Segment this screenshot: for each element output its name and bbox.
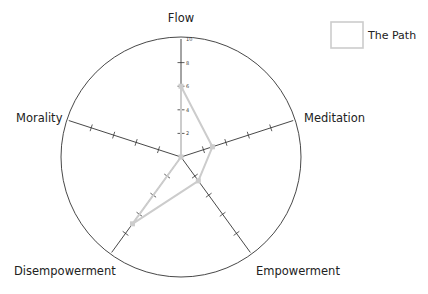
legend-swatch [331, 22, 363, 48]
radar-chart: 246810 FlowMeditationEmpowermentDisempow… [0, 0, 428, 294]
data-point-morality [179, 155, 184, 160]
axis-line-meditation [181, 121, 293, 157]
axis-line-morality [69, 121, 181, 157]
legend: The Path [331, 22, 416, 48]
tick-empowerment-6 [220, 212, 226, 216]
data-point-flow [179, 84, 184, 89]
data-point-empowerment [196, 178, 201, 183]
tick-label-2: 2 [186, 130, 189, 136]
tick-empowerment-8 [234, 231, 240, 235]
tick-label-8: 8 [186, 60, 189, 66]
tick-disempowerment-8 [123, 231, 129, 235]
tick-label-10: 10 [186, 36, 192, 42]
series-group [130, 84, 215, 227]
data-point-meditation [210, 144, 215, 149]
axis-label-flow: Flow [168, 11, 194, 25]
axis-label-meditation: Meditation [304, 111, 365, 125]
tick-label-6: 6 [186, 83, 189, 89]
axis-labels-group: FlowMeditationEmpowermentDisempowermentM… [14, 11, 365, 278]
tick-empowerment-2 [192, 174, 198, 178]
tick-empowerment-4 [206, 193, 212, 197]
axis-line-empowerment [181, 157, 250, 252]
series-polygon-0 [132, 86, 212, 224]
axis-label-disempowerment: Disempowerment [14, 264, 116, 278]
axis-label-morality: Morality [16, 111, 63, 125]
legend-label: The Path [367, 29, 416, 42]
axis-label-empowerment: Empowerment [256, 264, 340, 278]
tick-label-4: 4 [186, 107, 189, 113]
data-point-disempowerment [130, 221, 135, 226]
